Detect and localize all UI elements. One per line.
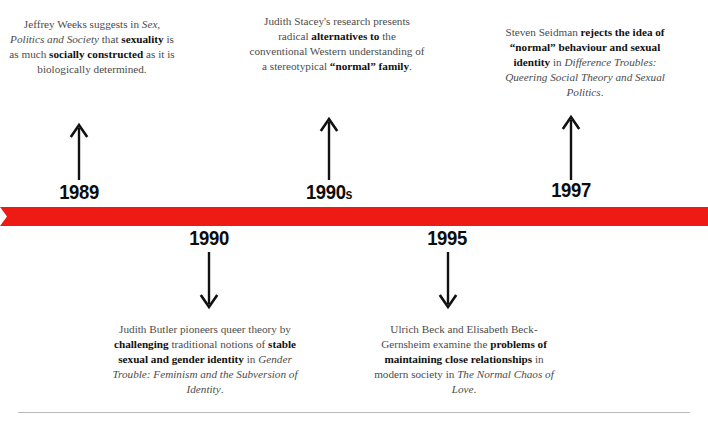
year-label-1989: 1989 xyxy=(39,180,120,204)
text-run-normal: Judith Butler pioneers queer theory by xyxy=(119,323,291,335)
text-run-normal: Steven Seidman xyxy=(505,26,580,38)
event-description-1997: Steven Seidman rejects the idea of “norm… xyxy=(494,25,676,100)
text-run-normal: . xyxy=(473,383,476,395)
year-value: 1989 xyxy=(59,180,99,203)
timeline-figure: Jeffrey Weeks suggests in Sex, Politics … xyxy=(0,0,708,428)
text-run-normal: that xyxy=(99,33,121,45)
year-value: 1997 xyxy=(551,178,591,201)
arrow-up-icon-1989 xyxy=(68,122,90,180)
text-run-normal: . xyxy=(601,86,604,98)
year-value: 1990 xyxy=(189,226,229,249)
event-description-1989: Jeffrey Weeks suggests in Sex, Politics … xyxy=(8,17,176,77)
year-label-1990: 1990 xyxy=(169,226,250,250)
year-value: 1995 xyxy=(427,226,467,249)
text-run-bold: socially constructed xyxy=(49,48,143,60)
text-run-normal: . xyxy=(221,383,224,395)
text-run-normal: Jeffrey Weeks suggests in xyxy=(24,18,142,30)
year-label-1995: 1995 xyxy=(407,226,488,250)
text-run-normal: . xyxy=(409,60,412,72)
year-value: 1990 xyxy=(306,180,346,203)
text-run-normal: in xyxy=(550,56,564,68)
event-description-1990: Judith Butler pioneers queer theory by c… xyxy=(112,322,298,397)
text-run-bold: sexuality xyxy=(121,33,163,45)
event-description-1990s: Judith Stacey's research presents radica… xyxy=(248,14,426,74)
year-label-1990s: 1990s xyxy=(289,180,370,204)
arrow-up-icon-1990s xyxy=(318,116,340,180)
arrow-down-icon-1990 xyxy=(198,252,220,310)
text-run-normal: traditional notions of xyxy=(169,338,268,350)
bottom-divider xyxy=(18,412,690,413)
text-run-italic: The Normal Chaos of Love xyxy=(452,368,554,395)
text-run-bold: “normal” family xyxy=(330,60,409,72)
arrow-up-icon-1997 xyxy=(560,114,582,180)
arrow-down-icon-1995 xyxy=(437,252,459,310)
year-label-1997: 1997 xyxy=(531,178,612,202)
text-run-bold: alternatives to xyxy=(311,30,379,42)
timeline-bar xyxy=(0,207,708,226)
event-description-1995: Ulrich Beck and Elisabeth Beck-Gernsheim… xyxy=(372,322,556,397)
text-run-normal: in xyxy=(244,353,258,365)
text-run-bold: challenging xyxy=(114,338,169,350)
year-suffix: s xyxy=(346,186,353,202)
